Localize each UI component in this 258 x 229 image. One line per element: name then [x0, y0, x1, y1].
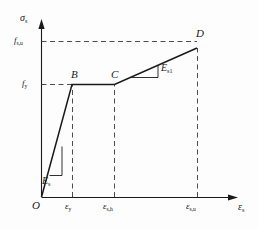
point-label-b: B — [71, 69, 78, 80]
diagram-canvas — [0, 0, 258, 229]
y-axis-arrowhead — [38, 19, 44, 29]
x-tick-label-epsilon-y: εy — [65, 202, 71, 211]
x-tick-label-epsilon-su: εs,u — [186, 202, 196, 211]
y-tick-label-fy: fy — [22, 79, 27, 88]
x-axis-label: εs — [238, 202, 244, 212]
origin-label: O — [32, 200, 40, 211]
stress-strain-curve — [42, 48, 198, 197]
stress-strain-diagram: σs εs O fs,u fy εy εs,h εs,u B C D Es Es… — [0, 0, 258, 229]
x-tick-label-epsilon-sh: εs,h — [103, 202, 113, 211]
y-axis-label: σs — [20, 13, 27, 23]
modulus-label-es: Es — [42, 176, 51, 186]
point-label-d: D — [196, 28, 204, 39]
x-axis-arrowhead — [228, 194, 238, 200]
y-tick-label-fsu: fs,u — [14, 36, 23, 45]
modulus-label-es1: Es1 — [161, 63, 173, 73]
point-label-c: C — [111, 69, 118, 80]
